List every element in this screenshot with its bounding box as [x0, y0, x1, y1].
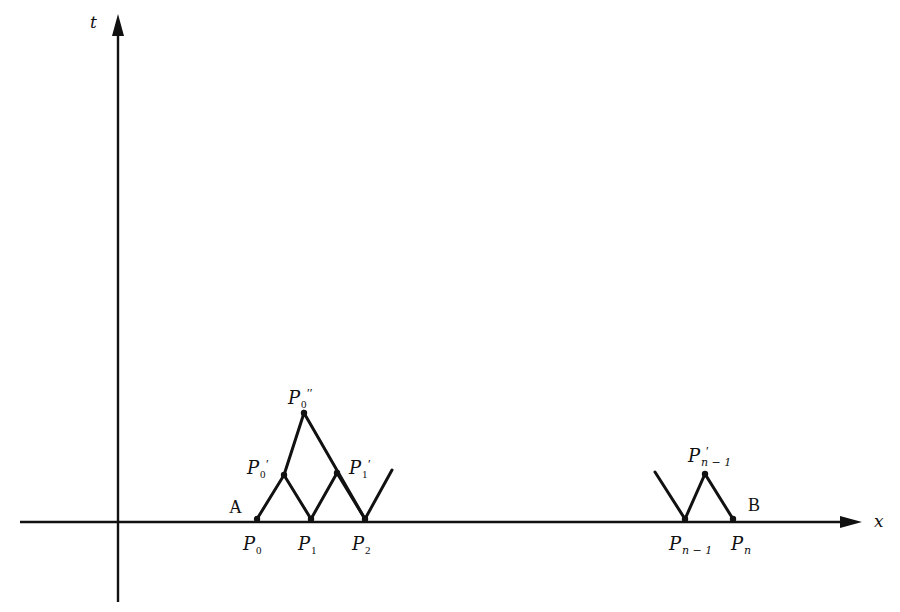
point-Pn-1	[682, 516, 688, 522]
label-P1: P 1	[297, 533, 317, 556]
label-Pn: P n	[730, 533, 751, 557]
t-axis-arrow-icon	[112, 14, 124, 36]
point-P2	[362, 516, 368, 522]
svg-text:1: 1	[311, 544, 317, 556]
svg-text:′: ′	[266, 456, 269, 471]
x-axis-arrow-icon	[840, 516, 862, 528]
label-P0-prime: P 0 ′	[246, 456, 269, 480]
svg-text:P: P	[687, 445, 701, 466]
svg-text:′: ′	[706, 443, 709, 458]
label-Pn-1-prime: P n − 1 ′	[687, 443, 731, 469]
endpoint-label-A: A	[229, 497, 242, 517]
svg-text:P: P	[348, 457, 362, 478]
point-P0-double-prime	[301, 410, 307, 416]
point-P1	[308, 516, 314, 522]
svg-text:P: P	[242, 533, 256, 554]
label-P2: P 2	[351, 533, 371, 556]
point-P0	[254, 516, 260, 522]
svg-text:P: P	[730, 533, 744, 554]
point-Pn	[730, 516, 736, 522]
svg-text:P: P	[246, 457, 260, 478]
characteristic-grid-diagram: x t A B P 0 P 1 P 2 P 0 ′ P 1 ′	[0, 0, 900, 612]
svg-text:2: 2	[365, 544, 371, 556]
svg-text:0: 0	[256, 544, 262, 556]
x-axis-label: x	[874, 511, 884, 531]
t-axis-label: t	[90, 12, 97, 32]
label-Pn-1: P n − 1	[668, 533, 712, 557]
svg-text:1: 1	[362, 468, 368, 480]
label-P0-double-prime: P 0 ′′	[287, 385, 313, 410]
svg-text:′′: ′′	[307, 385, 313, 400]
svg-text:′: ′	[368, 456, 371, 471]
svg-text:P: P	[351, 533, 365, 554]
right-characteristic-lattice	[655, 471, 736, 522]
svg-text:n − 1: n − 1	[682, 544, 712, 557]
label-P0: P 0	[242, 533, 262, 556]
svg-text:P: P	[287, 387, 301, 408]
left-characteristic-lattice	[254, 410, 392, 522]
svg-text:P: P	[297, 533, 311, 554]
point-Pn-1-prime	[702, 471, 708, 477]
point-P0-prime	[281, 472, 287, 478]
endpoint-label-B: B	[748, 495, 760, 515]
point-P1-prime	[334, 470, 340, 476]
svg-text:P: P	[668, 533, 682, 554]
label-P1-prime: P 1 ′	[348, 456, 371, 480]
svg-text:n: n	[744, 544, 751, 557]
